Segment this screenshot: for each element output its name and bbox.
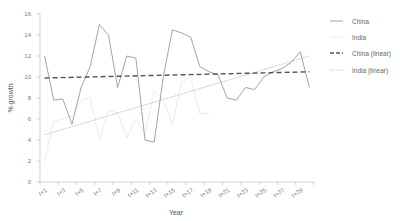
- x-tick-label: t+5: [74, 187, 85, 197]
- x-tick-label: t+13: [145, 187, 159, 199]
- series-india: [45, 77, 209, 161]
- x-axis: t+1t+3t+5t+7t+9t+11t+13t+15t+17t+19t+21t…: [38, 182, 314, 199]
- y-tick-label: 4: [28, 137, 32, 143]
- x-tick-label: t+27: [272, 187, 286, 199]
- x-tick-label: t+21: [218, 187, 232, 199]
- x-tick-label: t+1: [38, 187, 49, 197]
- x-tick-label: t+19: [199, 187, 213, 199]
- series-china-linear: [45, 72, 310, 78]
- x-tick-label: t+15: [163, 187, 177, 199]
- x-tick-label: t+9: [111, 187, 122, 197]
- y-tick-label: 6: [28, 116, 32, 122]
- y-tick-label: 10: [24, 74, 31, 80]
- legend-item-india: India: [330, 34, 366, 41]
- legend-label-china-linear: China (linear): [352, 50, 391, 58]
- x-tick-label: t+7: [93, 187, 104, 197]
- x-tick-label: t+17: [181, 187, 195, 199]
- x-tick-label: t+25: [254, 187, 268, 199]
- y-tick-label: 16: [24, 11, 31, 17]
- legend-item-china: China: [330, 18, 369, 25]
- x-axis-title: Year: [169, 209, 184, 216]
- y-axis-title: % growth: [7, 83, 15, 112]
- y-axis: 0246810121416: [24, 11, 40, 185]
- legend-item-china-linear: China (linear): [330, 50, 391, 58]
- y-tick-label: 2: [28, 158, 32, 164]
- x-tick-label: t+29: [291, 187, 305, 199]
- x-tick-label: t+11: [127, 187, 140, 199]
- y-tick-label: 8: [28, 95, 32, 101]
- legend-label-india-linear: India (linear): [352, 67, 388, 75]
- x-tick-label: t+3: [56, 187, 67, 197]
- legend-label-china: China: [352, 18, 369, 25]
- y-tick-label: 0: [28, 179, 32, 185]
- series-india-linear: [45, 56, 310, 135]
- y-tick-label: 12: [24, 53, 31, 59]
- line-chart: 0246810121416 t+1t+3t+5t+7t+9t+11t+13t+1…: [0, 0, 400, 221]
- legend: China India China (linear) India (linear…: [330, 18, 391, 75]
- legend-label-india: India: [352, 34, 366, 41]
- y-tick-label: 14: [24, 32, 31, 38]
- series-china: [45, 25, 310, 143]
- series-layer: [45, 25, 310, 162]
- x-tick-label: t+23: [236, 187, 250, 199]
- legend-item-india-linear: India (linear): [330, 67, 388, 75]
